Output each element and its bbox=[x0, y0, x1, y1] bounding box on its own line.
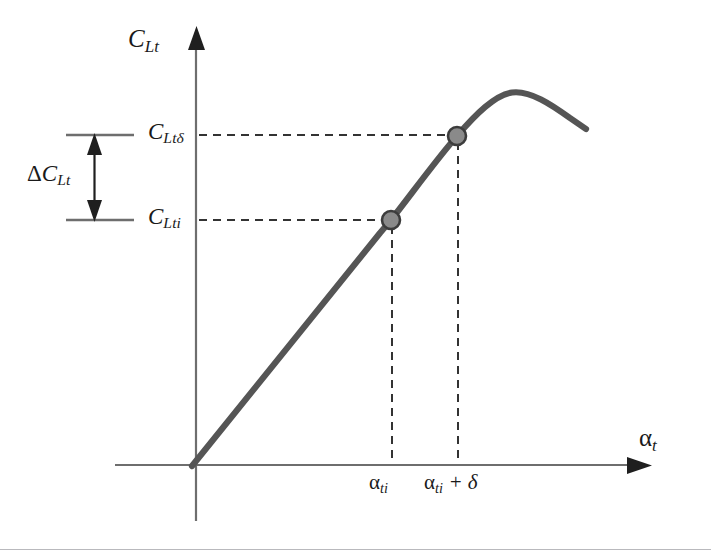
curve-group bbox=[192, 92, 586, 466]
y-tick-label-cltd-sub: Ltδ bbox=[163, 129, 184, 146]
x-tick-label-alpha-ti-base: α bbox=[369, 470, 380, 494]
delta-clt-label-sub: Lt bbox=[57, 171, 70, 188]
y-tick-label-clti-base: C bbox=[148, 204, 163, 229]
x-tick-label-alpha-ti-delta-sub: ti bbox=[435, 480, 443, 496]
delta-clt-label-base: C bbox=[42, 161, 57, 186]
y-axis-label: CLt bbox=[128, 26, 159, 55]
marker-point-clti bbox=[382, 211, 400, 229]
delta-arrowhead-up bbox=[87, 133, 102, 155]
y-axis-label-sub: Lt bbox=[145, 37, 159, 56]
y-axis-label-base: C bbox=[128, 25, 145, 52]
y-tick-label-cltd: CLtδ bbox=[148, 120, 184, 146]
y-tick-label-clti-sub: Lti bbox=[163, 214, 181, 231]
delta-clt-label-prefix: Δ bbox=[27, 161, 42, 186]
x-tick-label-alpha-ti: αti bbox=[369, 472, 388, 495]
delta-clt-label: ΔCLt bbox=[27, 162, 70, 188]
clt-curve bbox=[192, 92, 586, 466]
x-axis-label-sub: t bbox=[652, 436, 657, 455]
delta-measure-group bbox=[66, 133, 134, 222]
diagram-canvas bbox=[0, 0, 711, 553]
x-tick-label-alpha-ti-delta-suffix: + δ bbox=[443, 470, 477, 494]
y-tick-label-cltd-base: C bbox=[148, 119, 163, 144]
marker-point-cltd bbox=[448, 127, 466, 145]
x-tick-label-alpha-ti-delta-base: α bbox=[424, 470, 435, 494]
x-axis-arrowhead bbox=[627, 457, 652, 474]
x-axis-label-base: α bbox=[639, 424, 652, 451]
figure-container: CLt αt CLtδ CLti ΔCLt αti αti + δ bbox=[0, 0, 711, 553]
y-axis-arrowhead bbox=[188, 26, 205, 50]
x-tick-label-alpha-ti-delta: αti + δ bbox=[424, 472, 478, 495]
y-tick-label-clti: CLti bbox=[148, 205, 181, 231]
delta-arrowhead-down bbox=[87, 200, 102, 222]
x-axis-label: αt bbox=[639, 425, 657, 454]
x-tick-label-alpha-ti-sub: ti bbox=[380, 480, 388, 496]
axes-group bbox=[115, 26, 652, 521]
